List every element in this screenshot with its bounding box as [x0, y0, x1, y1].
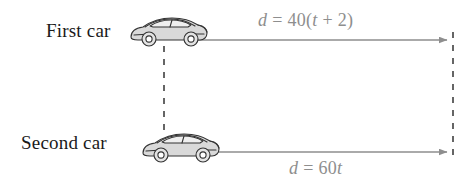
- second-car-equation: d = 60t: [289, 158, 342, 179]
- equation-top-rhs-suffix: + 2): [318, 10, 354, 30]
- equation-bottom-equals: =: [303, 158, 313, 178]
- equation-bottom-rhs-prefix: 60: [318, 158, 337, 178]
- distance-diagram-figure: First car Second car: [0, 0, 472, 192]
- first-car-label: First car: [46, 20, 111, 42]
- equation-top-lhs: d: [258, 10, 267, 30]
- sports-car-icon: [128, 14, 210, 48]
- sports-car-icon: [140, 130, 222, 164]
- equation-top-equals: =: [272, 10, 282, 30]
- equation-bottom-lhs: d: [289, 158, 298, 178]
- second-car-label: Second car: [21, 132, 107, 154]
- equation-top-rhs-prefix: 40(: [287, 10, 312, 30]
- equation-bottom-rhs-var: t: [337, 158, 342, 178]
- first-car-equation: d = 40(t + 2): [258, 10, 353, 31]
